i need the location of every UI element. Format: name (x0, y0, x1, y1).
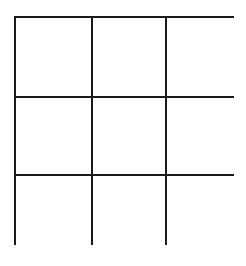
grid-cell-r0-c1[interactable] (93, 18, 165, 96)
grid-cell-r0-c2[interactable] (167, 18, 240, 96)
grid-cell-r0-c0[interactable] (16, 18, 91, 96)
grid-cell-r2-c0[interactable] (16, 176, 91, 251)
grid[interactable] (14, 16, 234, 245)
canvas (0, 0, 246, 266)
grid-cell-r1-c2[interactable] (167, 98, 240, 174)
grid-cell-r2-c2[interactable] (167, 176, 240, 251)
grid-cell-r1-c1[interactable] (93, 98, 165, 174)
grid-cell-r2-c1[interactable] (93, 176, 165, 251)
grid-cell-r1-c0[interactable] (16, 98, 91, 174)
